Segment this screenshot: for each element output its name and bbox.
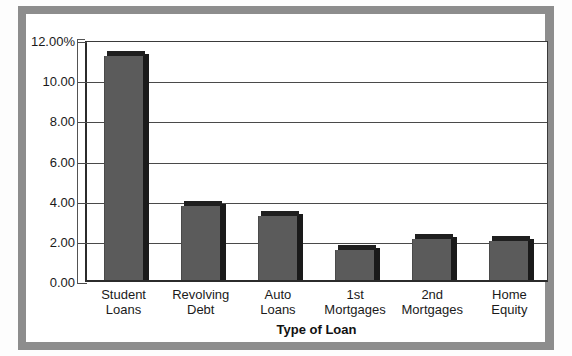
bar-top-face <box>415 234 453 239</box>
y-axis-tick <box>78 122 87 123</box>
bar-side-face <box>373 248 380 280</box>
y-axis-tick-label: 2.00 <box>50 236 75 249</box>
gridline <box>87 82 547 83</box>
x-axis-tick-label-line: Revolving <box>162 287 239 302</box>
x-axis-tick-label: RevolvingDebt <box>162 287 239 317</box>
y-axis-tick <box>78 42 87 43</box>
y-axis-tick-label: 0.00 <box>50 276 75 289</box>
x-axis-tick-label: 1stMortgages <box>317 287 394 317</box>
bar <box>181 206 219 280</box>
bar-side-face <box>142 54 149 280</box>
bar-side-face <box>219 204 226 280</box>
x-axis-title: Type of Loan <box>85 322 548 337</box>
x-axis-tick-label: AutoLoans <box>239 287 316 317</box>
y-axis-tick <box>78 82 87 83</box>
y-axis-tick <box>78 243 87 244</box>
y-axis-tick-label: 12.00% <box>31 35 75 48</box>
x-axis-tick-label-line: Auto <box>239 287 316 302</box>
bar-side-face <box>527 239 534 280</box>
y-axis-rail <box>77 39 85 284</box>
y-axis-tick <box>78 203 87 204</box>
y-axis-tick <box>78 283 87 284</box>
gridline <box>87 122 547 123</box>
bar-side-face <box>296 214 303 280</box>
bar-front-face <box>181 206 220 280</box>
bar-top-face <box>184 201 222 206</box>
bar <box>489 241 527 280</box>
bar-front-face <box>335 250 374 280</box>
y-axis-tick <box>78 163 87 164</box>
bar-chart: 12.00%10.008.006.004.002.000.00 StudentL… <box>18 6 554 350</box>
gridline <box>87 163 547 164</box>
y-axis-tick-label: 4.00 <box>50 196 75 209</box>
bar-top-face <box>261 211 299 216</box>
bar-top-face <box>492 236 530 241</box>
bar-front-face <box>489 241 528 280</box>
bar-top-face <box>338 245 376 250</box>
bar <box>258 216 296 280</box>
bar-front-face <box>412 239 451 280</box>
x-axis-tick-label-line: 2nd <box>394 287 471 302</box>
plot-area <box>85 41 548 282</box>
bar-front-face <box>104 56 143 280</box>
x-axis-tick-label: HomeEquity <box>471 287 548 317</box>
y-axis-tick-label: 10.00 <box>42 75 75 88</box>
bar-top-face <box>107 51 145 56</box>
x-axis-tick-label-line: Mortgages <box>317 302 394 317</box>
x-axis-tick-label-line: Student <box>85 287 162 302</box>
x-axis-tick-label: StudentLoans <box>85 287 162 317</box>
x-axis-tick-label: 2ndMortgages <box>394 287 471 317</box>
bar-side-face <box>450 237 457 280</box>
x-axis-tick-label-line: Debt <box>162 302 239 317</box>
x-axis-tick-label-line: Home <box>471 287 548 302</box>
scanned-page: 12.00%10.008.006.004.002.000.00 StudentL… <box>0 0 572 356</box>
y-axis-tick-label: 6.00 <box>50 156 75 169</box>
bar-front-face <box>258 216 297 280</box>
bar <box>104 56 142 280</box>
y-axis-tick-labels: 12.00%10.008.006.004.002.000.00 <box>18 41 75 282</box>
bar <box>335 250 373 280</box>
x-axis-tick-label-line: Mortgages <box>394 302 471 317</box>
x-axis-tick-label-line: Loans <box>85 302 162 317</box>
x-axis-tick-label-line: Equity <box>471 302 548 317</box>
gridline <box>87 203 547 204</box>
x-axis-tick-label-line: 1st <box>317 287 394 302</box>
bar <box>412 239 450 280</box>
y-axis-tick-label: 8.00 <box>50 115 75 128</box>
x-axis-tick-label-line: Loans <box>239 302 316 317</box>
gridline <box>87 243 547 244</box>
